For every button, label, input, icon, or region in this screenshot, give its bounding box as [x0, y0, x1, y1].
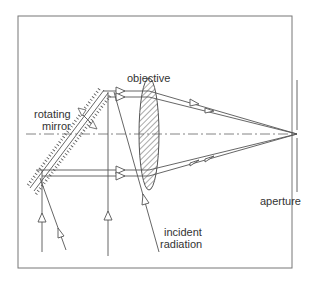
label-radiation: radiation [160, 238, 202, 250]
label-rotating: rotating [34, 108, 71, 120]
label-mirror: mirror [42, 120, 71, 132]
optical-diagram: objective rotating mirror incident radia… [0, 0, 321, 298]
label-objective: objective [127, 72, 170, 84]
objective-lens [139, 78, 159, 190]
label-incident: incident [164, 226, 202, 238]
label-aperture: aperture [260, 195, 301, 207]
